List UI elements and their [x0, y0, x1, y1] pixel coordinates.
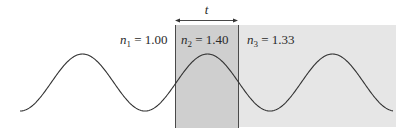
medium-label-n1: n1 = 1.00	[120, 32, 168, 49]
thickness-label: t	[205, 2, 209, 17]
svg-text:n1 = 1.00: n1 = 1.00	[120, 32, 168, 49]
thin-film-interference-diagram: t n1 = 1.00 n2 = 1.40 n3 = 1.33	[0, 0, 408, 133]
thickness-dimension-arrow	[175, 19, 238, 23]
